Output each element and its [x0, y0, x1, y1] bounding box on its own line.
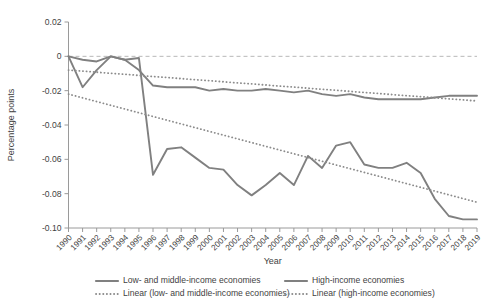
legend-label-1[interactable]: High-income economies: [312, 275, 404, 285]
y-axis-tick-label: -0.06: [42, 154, 62, 164]
y-axis-tick-label: -0.04: [42, 120, 62, 130]
y-axis-tick-label: -0.08: [42, 189, 62, 199]
legend-label-0[interactable]: Low- and middle-income economies: [123, 275, 261, 285]
series-line-3: [69, 70, 478, 101]
x-axis-tick-label: 2019: [463, 233, 483, 253]
series-line-0: [69, 56, 478, 219]
x-axis-title: Year: [264, 256, 282, 266]
series-line-2: [69, 94, 478, 202]
y-axis-title: Percentage points: [6, 88, 16, 161]
line-chart: 0.020-0.02-0.04-0.06-0.08-0.10 199019911…: [0, 0, 494, 305]
y-axis: 0.020-0.02-0.04-0.06-0.08-0.10: [42, 17, 69, 233]
chart-container: 0.020-0.02-0.04-0.06-0.08-0.10 199019911…: [0, 0, 494, 305]
x-axis: 1990199119921993199419951996199719981999…: [55, 228, 483, 252]
legend-label-3[interactable]: Linear (high-income economies): [312, 288, 435, 298]
legend-label-2[interactable]: Linear (low- and middle-income economies…: [123, 288, 290, 298]
series-line-1: [69, 56, 478, 99]
chart-legend: Low- and middle-income economiesHigh-inc…: [96, 275, 435, 298]
y-axis-tick-label: -0.10: [42, 223, 62, 233]
y-axis-tick-label: 0: [57, 51, 62, 61]
y-axis-tick-label: 0.02: [45, 17, 62, 27]
data-series-group: [69, 56, 478, 219]
y-axis-tick-label: -0.02: [42, 86, 62, 96]
